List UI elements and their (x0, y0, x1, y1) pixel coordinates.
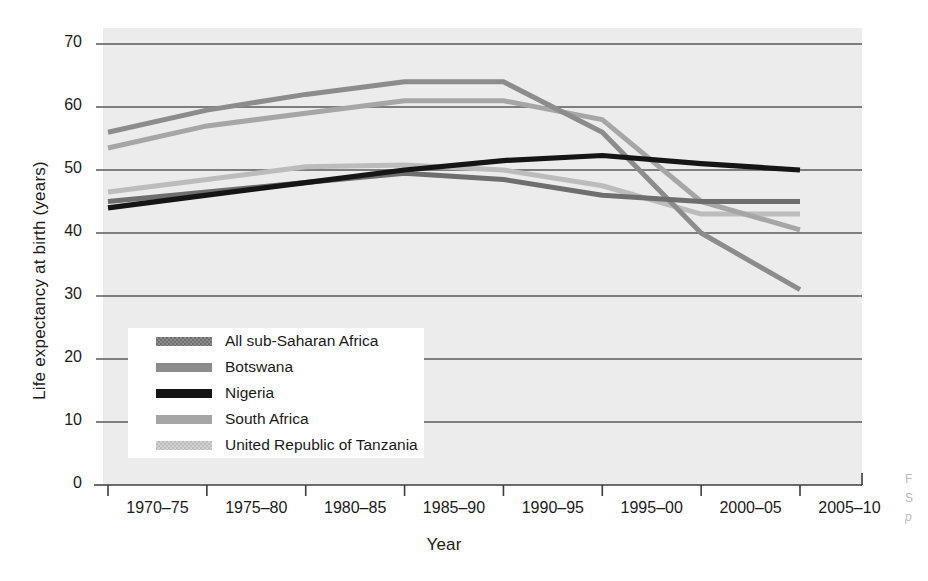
x-tick-label-4: 1990–95 (498, 499, 608, 517)
legend-swatch-icon-1 (156, 363, 212, 372)
legend-swatch-icon-0 (156, 337, 212, 346)
x-tick-label-0: 1970–75 (102, 499, 212, 517)
caption-line-1: F (905, 470, 928, 489)
legend-swatch-icon-2 (156, 389, 212, 398)
y-tick-label-10: 10 (22, 411, 82, 429)
legend-label-2: Nigeria (225, 384, 274, 402)
legend-swatch-icon-4 (156, 441, 212, 450)
y-axis-title: Life expectancy at birth (years) (30, 161, 50, 400)
x-tick-label-1: 1975–80 (201, 499, 311, 517)
x-axis-title: Year (0, 535, 928, 555)
x-axis-title-text: Year (426, 535, 461, 555)
chart-legend: All sub-Saharan AfricaBotswanaNigeriaSou… (128, 328, 424, 458)
line-chart-plot (0, 0, 928, 581)
legend-item-3[interactable]: South Africa (128, 406, 424, 432)
caption-line-3: p (905, 508, 928, 527)
x-tick-label-6: 2000–05 (696, 499, 806, 517)
caption-line-2: S (905, 489, 928, 508)
legend-item-2[interactable]: Nigeria (128, 380, 424, 406)
legend-swatch-icon-3 (156, 415, 212, 424)
legend-item-4[interactable]: United Republic of Tanzania (128, 432, 424, 458)
legend-label-1: Botswana (225, 358, 293, 376)
legend-item-0[interactable]: All sub-Saharan Africa (128, 328, 424, 354)
legend-label-4: United Republic of Tanzania (225, 436, 418, 454)
x-tick-label-2: 1980–85 (300, 499, 410, 517)
y-tick-label-70: 70 (22, 33, 82, 51)
x-tick-label-5: 1995–00 (597, 499, 707, 517)
y-tick-label-60: 60 (22, 96, 82, 114)
chart-figure: 010203040506070 1970–751975–801980–85198… (0, 0, 928, 581)
figure-caption-fragment: F S p (905, 470, 928, 527)
y-tick-label-0: 0 (22, 474, 82, 492)
x-tick-label-3: 1985–90 (399, 499, 509, 517)
x-tick-label-7: 2005–10 (794, 499, 904, 517)
legend-label-3: South Africa (225, 410, 309, 428)
legend-label-0: All sub-Saharan Africa (225, 332, 378, 350)
legend-item-1[interactable]: Botswana (128, 354, 424, 380)
